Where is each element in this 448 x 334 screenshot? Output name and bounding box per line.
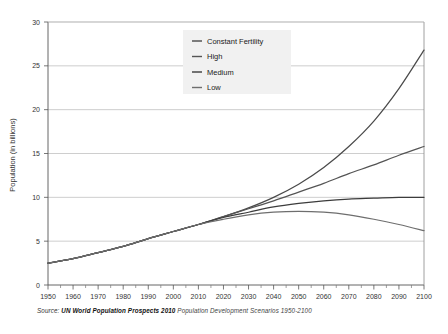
- x-tick-label: 1960: [65, 293, 81, 300]
- x-tick-label: 2010: [191, 293, 207, 300]
- x-tick-label: 2040: [266, 293, 282, 300]
- caption-suffix: Population Development Scenarios 1950-21…: [177, 307, 311, 314]
- legend-label: Constant Fertility: [207, 37, 264, 46]
- caption-prefix: Source:: [37, 307, 59, 314]
- x-tick-label: 2000: [166, 293, 182, 300]
- y-tick-label: 25: [32, 62, 40, 69]
- x-tick-label: 1980: [115, 293, 131, 300]
- y-tick-label: 15: [32, 150, 40, 157]
- y-axis-ticks: [44, 22, 48, 285]
- y-tick-label: 0: [36, 282, 40, 289]
- legend-label: Medium: [207, 68, 234, 77]
- x-tick-label: 2100: [416, 293, 432, 300]
- x-tick-label: 2050: [291, 293, 307, 300]
- y-tick-label: 5: [36, 238, 40, 245]
- chart-legend: Constant FertilityHighMediumLow: [183, 30, 291, 94]
- y-tick-label: 10: [32, 194, 40, 201]
- x-axis-tick-labels: 1950196019701980199020002010202020302040…: [40, 293, 432, 300]
- series-line-low: [48, 211, 424, 263]
- legend-label: High: [207, 52, 222, 61]
- x-tick-label: 2060: [316, 293, 332, 300]
- x-tick-label: 1950: [40, 293, 56, 300]
- y-axis-title: Population (in billions): [8, 118, 17, 192]
- y-axis-tick-labels: 051015202530: [32, 19, 40, 289]
- legend-label: Low: [207, 83, 221, 92]
- x-tick-label: 1970: [90, 293, 106, 300]
- x-tick-label: 2030: [241, 293, 257, 300]
- x-tick-label: 2020: [216, 293, 232, 300]
- y-tick-label: 20: [32, 106, 40, 113]
- x-tick-label: 2090: [391, 293, 407, 300]
- series-line-medium: [48, 197, 424, 263]
- x-tick-label: 2070: [341, 293, 357, 300]
- population-projection-figure: 1950196019701980199020002010202020302040…: [0, 0, 448, 334]
- series-line-high: [48, 146, 424, 263]
- x-axis-ticks: [48, 285, 424, 290]
- x-tick-label: 1990: [140, 293, 156, 300]
- source-caption: Source: UN World Population Prospects 20…: [37, 307, 312, 314]
- y-tick-label: 30: [32, 19, 40, 26]
- x-tick-label: 2080: [366, 293, 382, 300]
- caption-source-title: UN World Population Prospects 2010: [61, 307, 175, 314]
- line-chart: 1950196019701980199020002010202020302040…: [0, 0, 448, 334]
